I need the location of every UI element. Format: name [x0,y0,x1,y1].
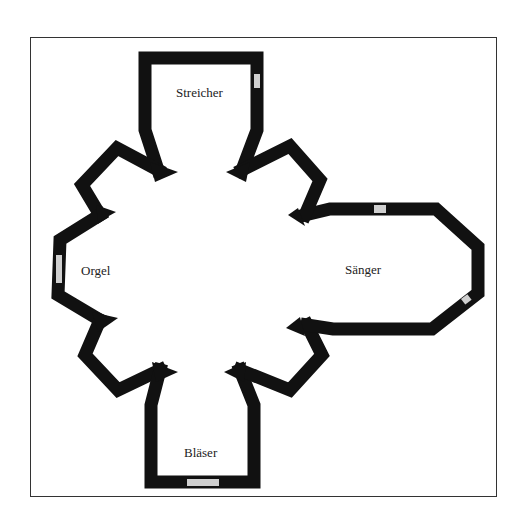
room-label-orgel: Orgel [81,263,110,279]
window [187,479,219,486]
lower-left-niche-walls [85,320,160,390]
window [374,205,386,213]
room-streicher-walls [145,58,260,170]
room-label-saenger: Sänger [345,262,381,278]
room-label-streicher: Streicher [176,85,223,101]
lower-right-niche-walls [240,325,322,390]
window [56,255,62,283]
room-blaeser-walls [151,370,254,486]
wall-spurs [92,162,305,382]
upper-left-niche-walls [56,148,158,320]
room-saenger-walls [305,205,478,329]
floor-plan [0,0,524,522]
room-label-blaeser: Bläser [184,445,217,461]
window [254,74,260,88]
